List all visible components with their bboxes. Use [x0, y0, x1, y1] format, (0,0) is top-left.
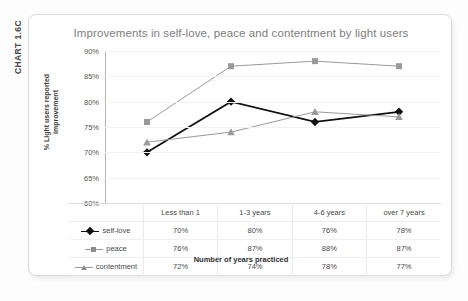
y-axis-title-line2: improvement — [52, 90, 59, 134]
y-axis-tick-label: 75% — [84, 123, 99, 132]
data-point-peace — [312, 58, 318, 64]
table-cell-value: 78% — [367, 222, 441, 240]
y-axis-tick-label: 90% — [84, 47, 99, 56]
y-axis-title: % Light users reported improvement — [42, 52, 60, 172]
data-point-peace — [396, 63, 402, 69]
y-axis-title-line1: % Light users reported — [43, 74, 50, 150]
y-axis-ticks: 90%85%80%75%70%65%60% — [69, 51, 103, 203]
chart-figure: CHART 1.6C Improvements in self-love, pe… — [0, 0, 468, 301]
legend-label: peace — [106, 244, 126, 253]
table-row: self-love70%80%76%78% — [69, 222, 441, 240]
y-axis-tick-label: 80% — [84, 97, 99, 106]
table-column-header: Less than 1 — [143, 204, 217, 222]
gridline — [105, 127, 441, 128]
data-point-peace — [228, 63, 234, 69]
gridline — [105, 102, 441, 103]
legend-label: self-love — [102, 226, 130, 235]
table-column-header: 4-6 years — [292, 204, 366, 222]
gridline — [105, 51, 441, 52]
table-column-header: 1-3 years — [218, 204, 292, 222]
data-table-wrapper: Less than 11-3 years4-6 yearsover 7 year… — [69, 203, 441, 276]
table-column-header: over 7 years — [367, 204, 441, 222]
data-point-peace — [144, 119, 150, 125]
series-line-peace — [147, 61, 399, 122]
y-axis-tick-label: 65% — [84, 173, 99, 182]
table-header-row: Less than 11-3 years4-6 yearsover 7 year… — [69, 204, 441, 222]
table-cell-value: 76% — [292, 222, 366, 240]
y-axis-tick-label: 85% — [84, 72, 99, 81]
table-cell-value: 70% — [143, 222, 217, 240]
plot-area — [105, 51, 441, 203]
gridline — [105, 178, 441, 179]
legend-marker-triangle-icon — [75, 263, 93, 271]
table-cell-value: 80% — [218, 222, 292, 240]
chart-card: Improvements in self-love, peace and con… — [28, 14, 452, 276]
legend-marker-square-icon — [85, 245, 103, 253]
table-corner-cell — [69, 204, 143, 222]
gridline — [105, 152, 441, 153]
data-point-self-love — [311, 118, 319, 126]
data-table: Less than 11-3 years4-6 yearsover 7 year… — [69, 203, 441, 276]
y-axis-tick-label: 70% — [84, 148, 99, 157]
x-axis-title: Number of years practiced — [29, 255, 453, 264]
plot-area-wrapper: 90%85%80%75%70%65%60% — [69, 51, 441, 203]
gridline — [105, 76, 441, 77]
legend-marker-diamond-icon — [81, 227, 99, 235]
chart-title: Improvements in self-love, peace and con… — [29, 27, 453, 39]
chart-number-label: CHART 1.6C — [13, 15, 23, 79]
legend-item-self-love[interactable]: self-love — [69, 222, 143, 240]
